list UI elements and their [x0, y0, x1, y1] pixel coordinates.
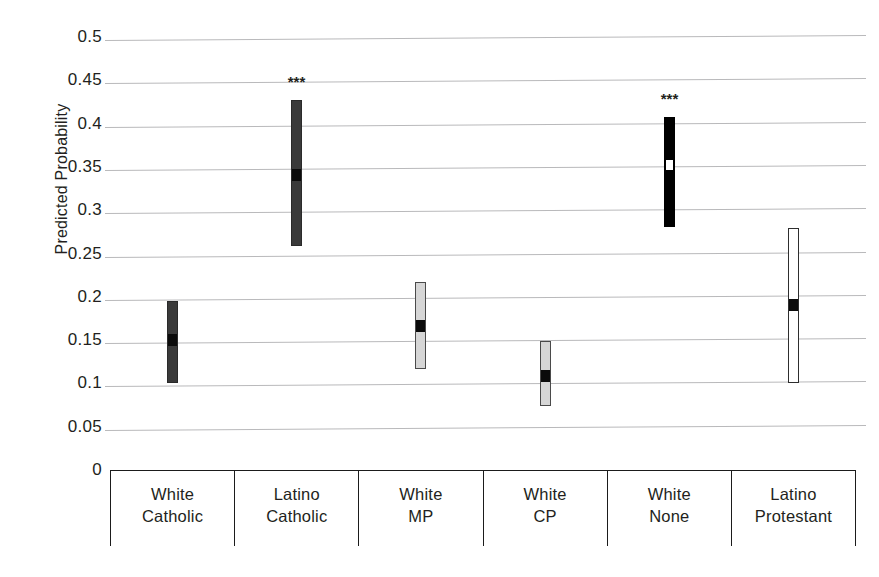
y-axis-tick-label: 0.35	[20, 157, 102, 177]
x-axis-category-label: None	[649, 506, 689, 528]
chart-figure: Predicted Probability 0.50.450.40.350.30…	[0, 0, 879, 577]
x-axis-category-cell: LatinoCatholic	[235, 471, 359, 546]
point-estimate-marker	[789, 299, 798, 311]
x-axis-category-label: Protestant	[755, 506, 832, 528]
point-estimate-marker	[168, 334, 177, 346]
y-axis-tick-label: 0.5	[20, 27, 102, 47]
point-estimate-marker	[416, 320, 425, 332]
significance-stars: ***	[288, 73, 306, 90]
x-axis-category-label: Catholic	[142, 506, 203, 528]
x-axis-category-label: White	[648, 484, 691, 506]
y-axis-tick-label: 0.25	[20, 244, 102, 264]
point-estimate-marker	[666, 160, 673, 170]
gridline	[105, 252, 866, 258]
y-axis-tick-label: 0.05	[20, 417, 102, 437]
gridline	[105, 165, 866, 171]
gridline	[105, 425, 866, 431]
x-axis-category-label: White	[399, 484, 442, 506]
point-estimate-marker	[541, 370, 550, 382]
point-estimate-marker	[292, 169, 301, 181]
x-axis-category-label: White	[524, 484, 567, 506]
x-axis-category-cell: WhiteCP	[484, 471, 608, 546]
x-axis-category-label: Latino	[274, 484, 320, 506]
y-axis-tick-label: 0.2	[20, 287, 102, 307]
gridline	[105, 122, 866, 128]
confidence-interval-bar	[664, 117, 675, 227]
y-axis-tick-label: 0.45	[20, 70, 102, 90]
y-axis-tick-label: 0.15	[20, 330, 102, 350]
x-axis-category-cell: WhiteNone	[608, 471, 732, 546]
y-axis-tick-label: 0.1	[20, 373, 102, 393]
y-axis-tick-label: 0.4	[20, 114, 102, 134]
x-axis-category-table: WhiteCatholicLatinoCatholicWhiteMPWhiteC…	[110, 470, 856, 546]
gridline	[105, 78, 866, 84]
gridline	[105, 35, 866, 41]
x-axis-category-label: Latino	[770, 484, 816, 506]
x-axis-category-label: Catholic	[266, 506, 327, 528]
x-axis-category-cell: WhiteMP	[359, 471, 483, 546]
y-axis-tick-label: 0.3	[20, 200, 102, 220]
x-axis-category-label: White	[151, 484, 194, 506]
gridline	[105, 338, 866, 344]
gridline	[105, 208, 866, 214]
x-axis-category-label: CP	[533, 506, 556, 528]
gridline	[105, 295, 866, 301]
significance-stars: ***	[661, 90, 679, 107]
x-axis-category-cell: LatinoProtestant	[732, 471, 855, 546]
gridline	[105, 381, 866, 387]
y-axis-tick-label: 0	[20, 460, 102, 480]
cropped-caption-text	[240, 566, 760, 577]
x-axis-category-label: MP	[408, 506, 433, 528]
x-axis-category-cell: WhiteCatholic	[111, 471, 235, 546]
